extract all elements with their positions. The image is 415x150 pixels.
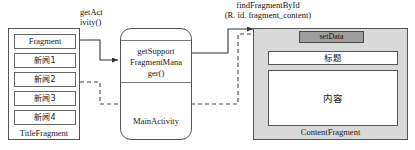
get-activity-line-2: ivity() [80, 18, 118, 28]
main-activity-caption: MainActivity [121, 116, 191, 126]
set-data-button[interactable]: setData [299, 31, 364, 43]
fragment-item-news-4[interactable]: 新闻4 [14, 110, 76, 125]
connector-get-activity [80, 40, 118, 60]
find-fragment-suffix: ) [308, 10, 311, 20]
title-fragment-panel[interactable]: Fragment 新闻1 新闻2 新闻3 新闻4 TitleFragment [8, 28, 80, 140]
find-fragment-prefix: (R. id. [225, 10, 249, 20]
fragment-item-fragment[interactable]: Fragment [14, 34, 76, 49]
main-activity-panel[interactable]: getSupport FragmentMana ger() MainActivi… [120, 28, 192, 140]
content-fragment-caption: ContentFragment [254, 127, 407, 138]
content-fragment-panel[interactable]: setData 标题 内容 ContentFragment [253, 28, 408, 140]
main-activity-top-divider [121, 40, 191, 41]
fragment-item-news-1[interactable]: 新闻1 [14, 53, 76, 68]
fragment-item-news-2[interactable]: 新闻2 [14, 72, 76, 87]
content-text-box[interactable]: 内容 [268, 70, 398, 126]
connector-find-fragment-by-id [192, 29, 253, 53]
fragment-item-news-3[interactable]: 新闻3 [14, 91, 76, 106]
title-text-box[interactable]: 标题 [268, 51, 398, 65]
main-activity-bottom-divider [121, 82, 191, 83]
get-support-fragment-manager-label: getSupport FragmentMana ger() [123, 46, 189, 79]
title-fragment-caption: TitleFragment [9, 127, 79, 139]
method-line-1: getSupport [123, 46, 189, 57]
find-fragment-line-2: (R. id. fragment_content) [178, 11, 358, 21]
get-activity-label: getAct ivity() [80, 8, 118, 27]
find-fragment-resource-id: fragment_content [248, 10, 308, 20]
method-line-3: ger() [123, 68, 189, 79]
find-fragment-by-id-label: findFragmentById (R. id. fragment_conten… [178, 1, 358, 20]
method-line-2: FragmentMana [123, 57, 189, 68]
